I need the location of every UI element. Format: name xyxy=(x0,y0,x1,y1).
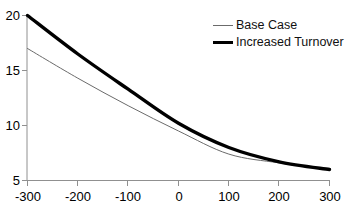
legend-item-base-case: Base Case xyxy=(213,17,350,33)
x-tick-marks xyxy=(28,181,330,187)
x-tick-label-300: 300 xyxy=(307,190,350,203)
chart-legend: Base Case Increased Turnover xyxy=(213,17,350,51)
x-tick-label-neg300: -300 xyxy=(5,190,51,203)
y-tick-label-15: 15 xyxy=(0,64,20,77)
legend-item-increased-turnover: Increased Turnover xyxy=(213,34,350,50)
legend-label-increased-turnover: Increased Turnover xyxy=(236,36,344,49)
y-tick-marks xyxy=(22,16,27,181)
x-tick-label-100: 100 xyxy=(206,190,252,203)
x-tick-label-200: 200 xyxy=(256,190,302,203)
y-tick-label-20: 20 xyxy=(0,9,20,22)
y-tick-label-10: 10 xyxy=(0,119,20,132)
chart-container: 20 15 10 5 -300 -200 -100 0 100 200 300 … xyxy=(0,0,350,211)
x-tick-label-0: 0 xyxy=(156,190,202,203)
x-tick-label-neg100: -100 xyxy=(105,190,151,203)
legend-label-base-case: Base Case xyxy=(236,19,297,32)
series-line-base-case xyxy=(28,49,330,170)
legend-line-icon-base-case xyxy=(213,25,233,26)
legend-line-icon-increased-turnover xyxy=(213,41,233,44)
x-tick-label-neg200: -200 xyxy=(55,190,101,203)
y-tick-label-5: 5 xyxy=(0,174,20,187)
